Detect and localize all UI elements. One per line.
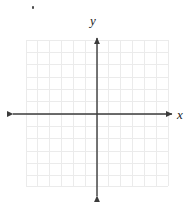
stray-scan-mark bbox=[32, 6, 34, 9]
y-axis-label: y bbox=[90, 14, 96, 27]
coordinate-plane-svg bbox=[0, 0, 195, 203]
coordinate-plane-figure: y x bbox=[0, 0, 195, 203]
x-axis-label: x bbox=[177, 108, 183, 121]
